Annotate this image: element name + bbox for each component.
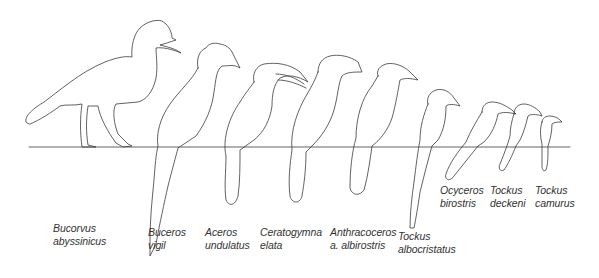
bird-tockus-deckeni: [499, 104, 542, 171]
bird-ceratogymna-elata: [289, 55, 362, 202]
species-label-aceros-undulatus: Aceros undulatus: [205, 226, 250, 252]
species-label-ceratogymna-elata: Ceratogymna elata: [260, 226, 322, 252]
bird-buceros-vigil: [150, 43, 240, 256]
bird-tockus-camurus: [541, 116, 563, 171]
species-label-tockus-deckeni: Tockus deckeni: [490, 184, 526, 210]
bird-aceros-undulatus: [225, 63, 308, 204]
species-label-ocyceros-birostris: Ocyceros birostris: [440, 184, 484, 210]
bird-anthracoceros-albirostris: [350, 63, 418, 194]
species-label-anthracoceros-albirostris: Anthracoceros a. albirostris: [330, 226, 396, 252]
species-label-tockus-camurus: Tockus camurus: [535, 184, 575, 210]
bird-bucorvus-abyssinicus: [26, 20, 181, 147]
species-label-tockus-albocristatus: Tockus albocristatus: [398, 230, 456, 256]
hornbill-illustration: Bucorvus abyssinicus Buceros vigil Acero…: [0, 0, 599, 278]
species-label-bucorvus-abyssinicus: Bucorvus abyssinicus: [53, 222, 106, 248]
species-label-buceros-vigil: Buceros vigil: [148, 226, 186, 252]
